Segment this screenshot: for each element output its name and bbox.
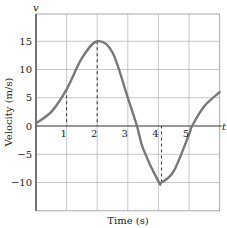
x-tick-label: 4 — [152, 128, 158, 139]
y-tick-label: −10 — [11, 177, 32, 188]
x-axis-variable: t — [222, 121, 227, 132]
tick-labels: 151050−5−1012345 — [11, 36, 189, 188]
y-tick-label: 15 — [19, 36, 32, 47]
y-tick-label: −5 — [17, 149, 32, 160]
y-tick-label: 10 — [19, 64, 32, 75]
grid — [36, 14, 222, 211]
y-axis-label: Velocity (m/s) — [3, 77, 14, 147]
y-tick-label: 5 — [26, 92, 32, 103]
x-tick-label: 1 — [60, 128, 66, 139]
y-axis-variable: v — [33, 2, 39, 13]
velocity-time-chart: 151050−5−1012345 v t Time (s) Velocity (… — [0, 0, 227, 228]
x-axis-label: Time (s) — [107, 215, 148, 226]
x-tick-label: 2 — [91, 128, 97, 139]
x-tick-label: 3 — [122, 128, 128, 139]
x-tick-label: 5 — [183, 128, 189, 139]
y-tick-label: 0 — [26, 121, 32, 132]
